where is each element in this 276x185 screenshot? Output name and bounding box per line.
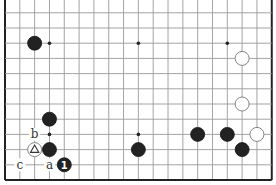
black-stone xyxy=(42,143,56,157)
hoshi-point xyxy=(48,133,52,137)
black-stone xyxy=(28,36,42,50)
point-label: b xyxy=(29,127,40,141)
black-stone-icon xyxy=(131,143,145,157)
black-stone-icon xyxy=(42,112,56,126)
black-stone-icon xyxy=(191,127,205,141)
white-stone xyxy=(235,51,249,65)
black-stone-icon xyxy=(235,143,249,157)
hoshi-point xyxy=(48,41,52,45)
black-stone xyxy=(191,127,205,141)
white-stone xyxy=(28,143,42,157)
white-stone-icon xyxy=(235,51,249,65)
point-label: c xyxy=(14,158,25,172)
label-text-c: c xyxy=(16,158,23,172)
white-stone-icon xyxy=(250,127,264,141)
hoshi-point xyxy=(137,133,141,137)
point-label: a xyxy=(44,158,55,172)
black-stone xyxy=(235,143,249,157)
black-stone-icon xyxy=(220,127,234,141)
black-stone-icon xyxy=(42,143,56,157)
white-stone-icon xyxy=(235,97,249,111)
white-stone xyxy=(250,127,264,141)
go-board: bac 1 xyxy=(0,0,276,185)
hoshi-point xyxy=(137,41,141,45)
label-text-a: a xyxy=(46,158,53,172)
label-text-b: b xyxy=(31,127,39,141)
hoshi-point xyxy=(226,41,230,45)
move-number: 1 xyxy=(61,160,68,171)
black-stone-icon xyxy=(28,36,42,50)
white-stone xyxy=(235,97,249,111)
black-stone: 1 xyxy=(57,158,71,172)
black-stone xyxy=(220,127,234,141)
black-stone xyxy=(42,112,56,126)
black-stone xyxy=(131,143,145,157)
